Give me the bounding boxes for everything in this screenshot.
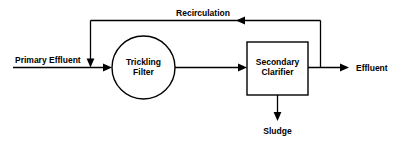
sludge-label: Sludge xyxy=(263,126,292,136)
effluent-label: Effluent xyxy=(356,63,388,73)
flow-diagram-canvas: Trickling Filter Secondary Clarifier Pri… xyxy=(0,0,402,147)
primary-effluent-label: Primary Effluent xyxy=(15,55,81,65)
filter-to-clarifier-arrowhead xyxy=(238,64,247,72)
recirculation-label: Recirculation xyxy=(176,8,230,18)
trickling-filter-label-line2: Filter xyxy=(133,67,154,77)
sludge-arrowhead xyxy=(274,112,282,121)
recirculation-drop-arrowhead xyxy=(87,59,95,68)
secondary-clarifier-label-line2: Clarifier xyxy=(261,67,294,77)
recirculation-arrowhead xyxy=(236,17,245,25)
process-flow-diagram: Trickling Filter Secondary Clarifier Pri… xyxy=(0,0,402,147)
secondary-clarifier-label-line1: Secondary xyxy=(256,57,300,67)
trickling-filter-label-line1: Trickling xyxy=(126,57,161,67)
primary-effluent-arrowhead xyxy=(103,64,112,72)
effluent-arrowhead xyxy=(340,64,349,72)
